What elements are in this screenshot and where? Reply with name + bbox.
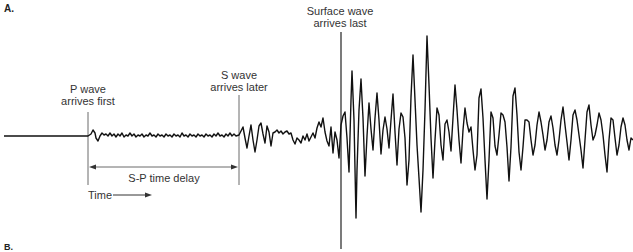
time-arrow-icon: [113, 193, 152, 198]
s-wave-label: S wave arrives later: [205, 69, 273, 93]
surface-wave-label-line1: Surface wave: [300, 5, 380, 17]
surface-wave-label-line2: arrives last: [300, 17, 380, 29]
surface-wave-label: Surface wave arrives last: [300, 5, 380, 29]
sp-delay-label: S-P time delay: [120, 172, 208, 184]
s-wave-label-line1: S wave: [205, 69, 273, 81]
time-axis-label: Time: [88, 189, 112, 201]
s-wave-label-line2: arrives later: [205, 81, 273, 93]
sp-delay-arrow: [89, 165, 238, 170]
p-wave-label: P wave arrives first: [55, 83, 121, 107]
p-wave-label-line2: arrives first: [55, 95, 121, 107]
p-wave-label-line1: P wave: [55, 83, 121, 95]
